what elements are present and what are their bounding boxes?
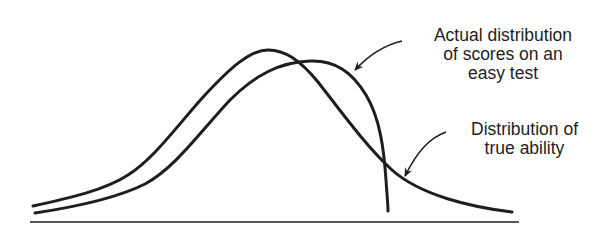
label-true-line-1: Distribution of — [442, 120, 606, 139]
label-actual-distribution: Actual distribution of scores on an easy… — [403, 26, 603, 83]
curve-actual-scores — [35, 61, 388, 213]
arrow-true-ability — [405, 132, 446, 176]
arrow-actual-distribution — [355, 41, 402, 70]
label-true-line-2: true ability — [442, 139, 606, 158]
diagram-canvas: Actual distribution of scores on an easy… — [0, 0, 606, 236]
label-actual-line-2: of scores on an — [403, 45, 603, 64]
label-actual-line-1: Actual distribution — [403, 26, 603, 45]
label-true-ability: Distribution of true ability — [442, 120, 606, 158]
label-actual-line-3: easy test — [403, 64, 603, 83]
